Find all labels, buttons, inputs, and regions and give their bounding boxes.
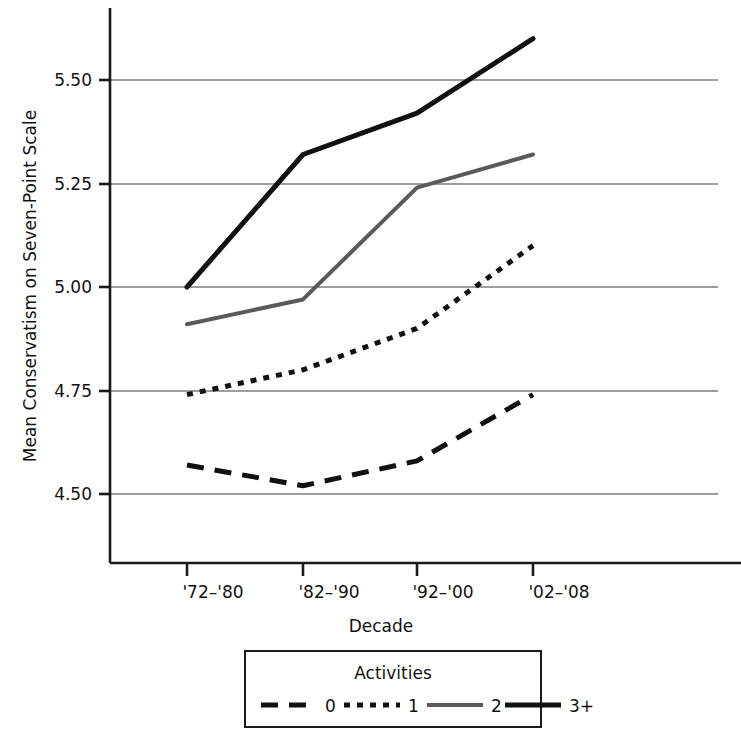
y-tick-label-4-50: 4.50 [54,484,92,504]
line-chart: 5.50 5.25 5.00 4.75 4.50 '72–'80 '82–'90… [0,0,741,742]
y-tick-label-5-25: 5.25 [54,174,92,194]
legend-label-3: 3+ [569,696,594,716]
x-tick-label-0: '72–'80 [182,582,243,602]
y-tick-label-4-75: 4.75 [54,381,92,401]
legend-label-1: 1 [408,696,419,716]
x-tick-label-2: '92–'00 [412,582,473,602]
y-axis-title: Mean Conservatism on Seven-Point Scale [20,110,40,462]
y-tick-label-5-50: 5.50 [54,70,92,90]
x-tick-label-1: '82–'90 [298,582,359,602]
x-tick-label-3: '02–'08 [528,582,589,602]
x-axis-title: Decade [349,616,414,636]
chart-figure: 5.50 5.25 5.00 4.75 4.50 '72–'80 '82–'90… [0,0,741,742]
legend-title: Activities [354,663,432,683]
legend-label-2: 2 [491,696,502,716]
y-tick-label-5-00: 5.00 [54,277,92,297]
legend: Activities 0 1 2 3+ [245,651,594,727]
legend-label-0: 0 [325,696,336,716]
